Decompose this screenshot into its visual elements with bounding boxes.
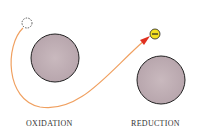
reduction-label: REDUCTION [131,119,180,128]
oxidation-label: OXIDATION [26,119,73,128]
diagram-graphic [0,0,205,133]
right-atom-sphere [137,56,185,104]
electron-path-arrow [11,28,145,108]
redox-diagram: OXIDATION REDUCTION [0,0,205,133]
left-atom-sphere [31,34,79,82]
vacated-electron-icon [22,18,32,28]
